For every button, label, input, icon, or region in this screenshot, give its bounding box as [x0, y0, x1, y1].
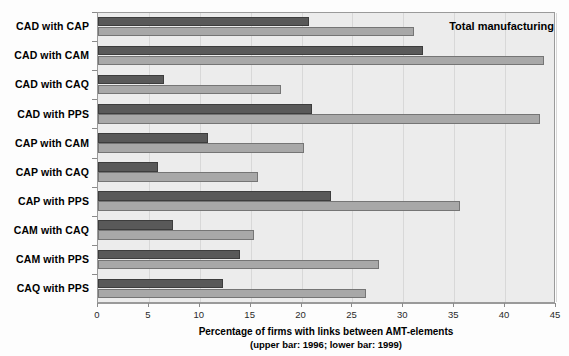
- bar-group: [98, 188, 554, 217]
- x-axis-tick-label: 5: [128, 309, 168, 320]
- bar-lower-1999: [98, 260, 379, 270]
- y-axis-label-cap-with-pps: CAP with PPS: [18, 195, 89, 207]
- y-axis-tick: [92, 274, 97, 275]
- bar-lower-1999: [98, 85, 281, 95]
- bar-group: [98, 217, 554, 246]
- bar-upper-1996: [98, 17, 309, 27]
- x-axis-tick-label: 0: [77, 309, 117, 320]
- x-axis-tick-label: 35: [433, 309, 473, 320]
- bar-lower-1999: [98, 56, 544, 66]
- x-axis-tick: [402, 303, 403, 307]
- bar-group: [98, 159, 554, 188]
- x-axis-tick-label: 20: [281, 309, 321, 320]
- x-axis-tick: [97, 303, 98, 307]
- x-axis-tick-label: 30: [382, 309, 422, 320]
- bars-layer: [98, 13, 554, 302]
- bar-lower-1999: [98, 201, 460, 211]
- x-axis-tick-label: 40: [484, 309, 524, 320]
- x-axis-tick: [148, 303, 149, 307]
- x-axis-tick-label: 25: [331, 309, 371, 320]
- bar-upper-1996: [98, 162, 158, 172]
- y-axis-tick: [92, 99, 97, 100]
- bar-lower-1999: [98, 289, 366, 299]
- y-axis-tick: [92, 12, 97, 13]
- bar-group: [98, 71, 554, 100]
- bar-upper-1996: [98, 279, 223, 289]
- y-axis-label-cad-with-cap: CAD with CAP: [16, 20, 89, 32]
- bar-upper-1996: [98, 250, 240, 260]
- bar-lower-1999: [98, 27, 414, 37]
- bar-lower-1999: [98, 172, 258, 182]
- bar-group: [98, 246, 554, 275]
- bar-upper-1996: [98, 46, 423, 56]
- chart-figure: CAD with CAPCAD with CAMCAD with CAQCAD …: [0, 0, 569, 356]
- bar-group: [98, 42, 554, 71]
- y-axis-label-cap-with-caq: CAP with CAQ: [16, 166, 89, 178]
- y-axis-label-caq-with-pps: CAQ with PPS: [17, 282, 89, 294]
- bar-upper-1996: [98, 220, 173, 230]
- total-manufacturing-annotation: Total manufacturing: [449, 20, 554, 32]
- x-axis-tick: [555, 303, 556, 307]
- x-axis-line: [97, 303, 555, 304]
- bar-group: [98, 129, 554, 158]
- x-axis-tick-label: 15: [230, 309, 270, 320]
- y-axis-label-cad-with-cam: CAD with CAM: [14, 49, 89, 61]
- y-axis-label-cap-with-cam: CAP with CAM: [15, 137, 89, 149]
- bar-group: [98, 275, 554, 304]
- y-axis-tick: [92, 216, 97, 217]
- y-axis-label-cam-with-caq: CAM with CAQ: [14, 224, 89, 236]
- bar-lower-1999: [98, 230, 254, 240]
- x-axis-tick: [453, 303, 454, 307]
- x-axis-title: Percentage of firms with links between A…: [199, 326, 454, 337]
- y-axis-label-cad-with-pps: CAD with PPS: [17, 108, 89, 120]
- x-axis-tick: [351, 303, 352, 307]
- bar-upper-1996: [98, 104, 312, 114]
- x-axis-tick: [301, 303, 302, 307]
- y-axis-tick: [92, 158, 97, 159]
- bar-upper-1996: [98, 133, 208, 143]
- x-axis-tick: [199, 303, 200, 307]
- y-axis-label-cam-with-pps: CAM with PPS: [16, 253, 89, 265]
- y-axis-tick: [92, 128, 97, 129]
- bar-lower-1999: [98, 143, 304, 153]
- plot-area: Total manufacturing: [97, 12, 555, 303]
- bar-group: [98, 100, 554, 129]
- x-axis-tick-label: 10: [179, 309, 219, 320]
- bar-upper-1996: [98, 75, 164, 85]
- y-axis-label-cad-with-caq: CAD with CAQ: [15, 78, 89, 90]
- x-axis-caption: Percentage of firms with links between A…: [97, 325, 555, 351]
- gridline: [556, 13, 557, 302]
- bar-lower-1999: [98, 114, 540, 124]
- x-axis-tick-label: 45: [535, 309, 569, 320]
- y-axis-tick: [92, 70, 97, 71]
- y-axis-tick: [92, 245, 97, 246]
- y-axis-tick: [92, 41, 97, 42]
- bar-upper-1996: [98, 191, 331, 201]
- x-axis-tick: [250, 303, 251, 307]
- x-axis-tick: [504, 303, 505, 307]
- y-axis-category-labels: CAD with CAPCAD with CAMCAD with CAQCAD …: [0, 12, 93, 303]
- y-axis-tick: [92, 187, 97, 188]
- x-axis-subtitle: (upper bar: 1996; lower bar: 1999): [97, 338, 555, 351]
